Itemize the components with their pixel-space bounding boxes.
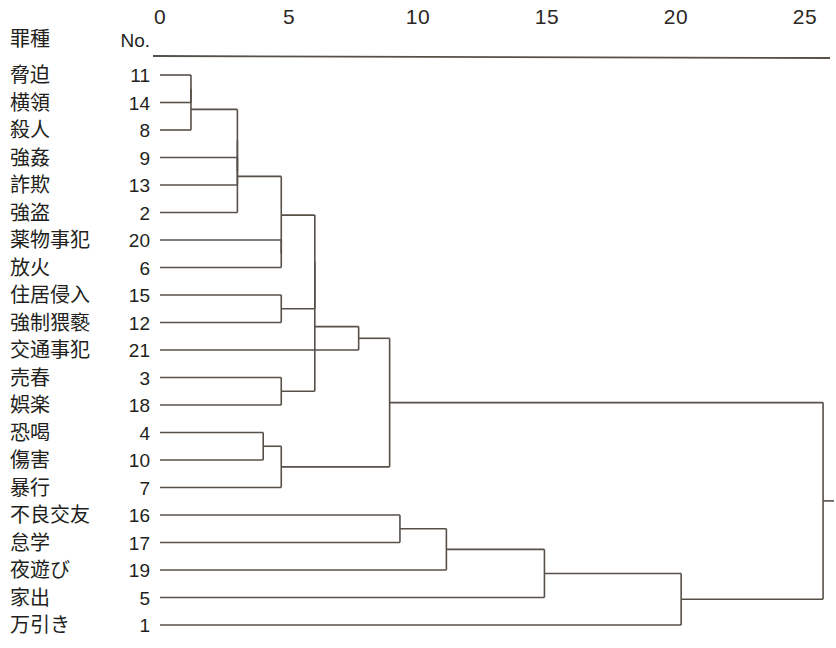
dendrogram-figure: 0510152025 罪種 No. 脅迫11横領14殺人8強姦9詐欺13強盗2薬…: [0, 0, 836, 648]
dendrogram-tree: [0, 0, 836, 648]
axis-baseline: [153, 56, 830, 58]
